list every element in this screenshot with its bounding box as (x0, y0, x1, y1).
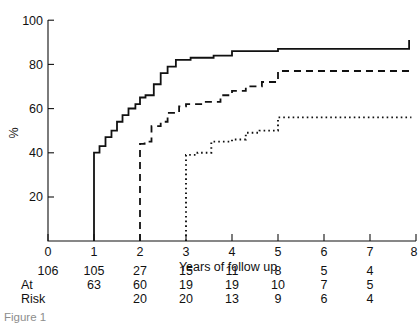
xtick-label: 2 (137, 245, 144, 259)
y-axis-tick-labels: 100 80 60 40 20 (22, 14, 43, 205)
table-cell: 15 (179, 264, 193, 278)
table-cell: 20 (179, 292, 193, 306)
table-cell: 7 (321, 278, 328, 292)
curve-dotted (186, 117, 411, 241)
survival-curve-chart: 100 80 60 40 20 % 0 1 2 3 4 5 6 (0, 0, 420, 323)
at-risk-label-line1: At (21, 278, 33, 292)
ytick-label: 100 (22, 14, 43, 28)
x-axis-ticks (48, 234, 416, 241)
table-cell: 4 (367, 292, 374, 306)
table-cell: 5 (321, 264, 328, 278)
table-cell: 20 (133, 292, 147, 306)
curve-solid (94, 40, 409, 241)
ytick-label: 60 (29, 102, 43, 116)
table-cell: 105 (84, 264, 105, 278)
y-axis-ticks (48, 20, 54, 197)
table-cell: 6 (321, 292, 328, 306)
table-cell: 19 (179, 278, 193, 292)
xtick-label: 3 (183, 245, 190, 259)
curve-dashed (140, 71, 411, 241)
figure-container: 100 80 60 40 20 % 0 1 2 3 4 5 6 (0, 0, 420, 323)
table-cell: 19 (225, 278, 239, 292)
figure-caption: Figure 1 (4, 311, 46, 323)
ytick-label: 40 (29, 146, 43, 160)
table-cell: 4 (367, 264, 374, 278)
ytick-label: 80 (29, 58, 43, 72)
table-cell: 8 (275, 264, 282, 278)
table-cell: 10 (271, 278, 285, 292)
table-cell: 9 (275, 292, 282, 306)
table-cell: 106 (38, 264, 59, 278)
xtick-label: 1 (91, 245, 98, 259)
ytick-label: 20 (29, 190, 43, 204)
table-row: 63 60 19 19 10 7 5 (87, 278, 373, 292)
xtick-label: 4 (229, 245, 236, 259)
xtick-label: 6 (321, 245, 328, 259)
table-cell: 13 (225, 292, 239, 306)
table-cell: 27 (133, 264, 147, 278)
table-cell: 63 (87, 278, 101, 292)
table-cell: 60 (133, 278, 147, 292)
xtick-label: 7 (367, 245, 374, 259)
xtick-label: 8 (411, 245, 418, 259)
xtick-label: 0 (45, 245, 52, 259)
xtick-label: 5 (275, 245, 282, 259)
table-cell: 11 (226, 264, 239, 278)
table-row: 20 20 13 9 6 4 (133, 292, 373, 306)
y-axis-title: % (7, 127, 21, 138)
x-axis-tick-labels: 0 1 2 3 4 5 6 7 8 (45, 245, 418, 259)
table-cell: 5 (367, 278, 374, 292)
at-risk-label-line2: Risk (21, 292, 46, 306)
